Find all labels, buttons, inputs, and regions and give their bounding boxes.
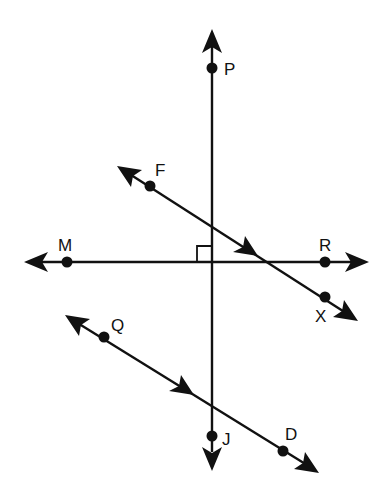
label-x: X xyxy=(315,307,326,326)
label-p: P xyxy=(224,60,235,79)
labels: P F M R X Q J D xyxy=(58,60,331,449)
parallel-mark-icon xyxy=(233,236,258,256)
label-q: Q xyxy=(111,316,124,335)
line-pj xyxy=(202,29,222,471)
right-angle-marker xyxy=(197,246,212,262)
point-d xyxy=(278,446,289,457)
arrow-downright-icon xyxy=(294,452,319,473)
point-x xyxy=(320,292,331,303)
arrow-downright-icon xyxy=(333,300,358,321)
point-q xyxy=(99,332,110,343)
label-m: M xyxy=(58,236,72,255)
point-m xyxy=(62,257,73,268)
arrow-upleft-icon xyxy=(117,166,142,187)
arrow-upleft-icon xyxy=(65,315,90,336)
label-j: J xyxy=(222,430,231,449)
geometry-diagram: P F M R X Q J D xyxy=(0,0,381,494)
parallel-mark-icon xyxy=(169,375,194,395)
point-j xyxy=(207,431,218,442)
label-d: D xyxy=(285,425,297,444)
point-p xyxy=(207,63,218,74)
label-r: R xyxy=(319,236,331,255)
point-f xyxy=(145,181,156,192)
point-r xyxy=(320,257,331,268)
label-f: F xyxy=(155,161,165,180)
